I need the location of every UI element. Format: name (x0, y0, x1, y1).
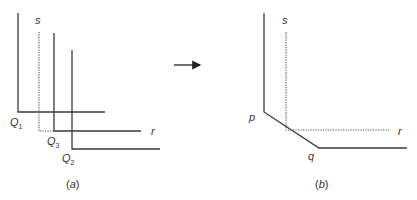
label-r-b: r (398, 125, 403, 137)
panel-b: s r p q (b) (248, 13, 407, 190)
label-r-a: r (151, 125, 156, 137)
label-s-a: s (35, 14, 41, 26)
s-r-dotted-line (286, 32, 390, 130)
caption-b: (b) (315, 178, 328, 190)
caption-a: (a) (66, 178, 79, 190)
label-q1: Q1 (10, 116, 23, 130)
diagram-canvas: s r Q1 Q3 Q2 (a) s r p q (b) (0, 0, 417, 200)
label-q3: Q3 (47, 135, 60, 149)
label-p: p (248, 111, 255, 123)
q3-isoquant (54, 33, 141, 131)
label-q: q (308, 150, 315, 162)
panel-a: s r Q1 Q3 Q2 (a) (10, 13, 160, 190)
q1-isoquant (18, 13, 105, 112)
label-s-b: s (282, 14, 288, 26)
s-dotted-line (39, 32, 54, 131)
label-q2: Q2 (62, 152, 75, 166)
q2-isoquant (72, 50, 160, 149)
